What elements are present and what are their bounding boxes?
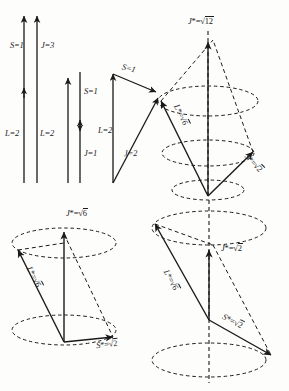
label-J1: J=1 xyxy=(84,148,97,158)
vector-J-oblique xyxy=(113,98,158,183)
diagram-antiparallel-coupling xyxy=(68,72,80,183)
label-L2-antiparallel: L=2 xyxy=(40,128,54,138)
cone-j-sqrt6 xyxy=(12,228,116,345)
cone-j-sqrt2 xyxy=(152,200,271,383)
label-J3: J=3 xyxy=(41,40,54,50)
label-S1-parallel: S=1 xyxy=(10,40,24,50)
label-J2: J=2 xyxy=(124,148,138,158)
label-L2-parallel: L=2 xyxy=(5,128,19,138)
radicand-2-br-total: 2 xyxy=(238,243,243,253)
label-J-sqrt6: J*=√6 xyxy=(66,208,88,218)
label-S1-antiparallel: S=1 xyxy=(84,86,98,96)
vector-S-oblique xyxy=(113,74,156,92)
dashed-edge-br-1 xyxy=(155,224,213,245)
dashed-edge-bl-2 xyxy=(64,234,113,337)
figure-vectors xyxy=(0,0,289,391)
label-J-sqrt12: J*=√12 xyxy=(188,16,214,26)
dashed-edge-bl-1 xyxy=(18,243,64,250)
diagram-oblique-coupling xyxy=(113,74,158,183)
vector-coupling-figure: S=1 J=3 L=2 L=2 S=1 J=1 L=2 S=1 J=2 J*=√… xyxy=(0,0,289,391)
parallelogram-edge-top-left xyxy=(161,40,213,101)
parallelogram-edge-top-right xyxy=(213,40,253,152)
label-L2-oblique: L=2 xyxy=(98,125,112,135)
cone-j-sqrt12 xyxy=(158,28,258,200)
diagram-parallel-coupling xyxy=(24,16,37,183)
label-J-sqrt2: J*=√2 xyxy=(221,243,243,253)
radicand-12: 12 xyxy=(205,16,214,26)
radicand-2-bl: 2 xyxy=(113,338,119,348)
vector-L-bl xyxy=(18,250,64,342)
radicand-6-bl-total: 6 xyxy=(83,208,88,218)
